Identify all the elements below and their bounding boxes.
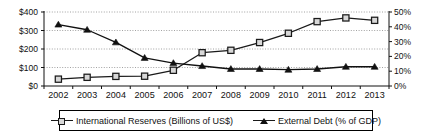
chart-container: $400 $300 $200 $100 $0 50% 40% 30% 20% 1… [0, 0, 430, 140]
y-right-tick-3: 20% [394, 52, 428, 61]
chart-legend: International Reserves (Billions of US$)… [59, 110, 373, 131]
y-left-tick-3: $100 [4, 64, 38, 73]
y-right-tick-5: 0% [394, 82, 428, 91]
legend-label-international-reserves: International Reserves (Billions of US$) [76, 116, 233, 126]
y-left-tick-0: $400 [4, 8, 38, 17]
x-axis-tick-2013: 2013 [355, 90, 395, 100]
y-right-tick-2: 30% [394, 38, 428, 47]
open-square-marker-icon [51, 116, 73, 126]
legend-item-external-debt: External Debt (% of GDP) [253, 116, 381, 126]
y-right-tick-0: 50% [394, 8, 428, 17]
legend-label-external-debt: External Debt (% of GDP) [278, 116, 381, 126]
y-left-tick-1: $300 [4, 27, 38, 36]
y-left-tick-4: $0 [4, 82, 38, 91]
filled-triangle-marker-icon [253, 116, 275, 126]
y-right-tick-1: 40% [394, 23, 428, 32]
y-right-tick-4: 10% [394, 67, 428, 76]
y-left-tick-2: $200 [4, 45, 38, 54]
legend-item-international-reserves: International Reserves (Billions of US$) [51, 116, 233, 126]
